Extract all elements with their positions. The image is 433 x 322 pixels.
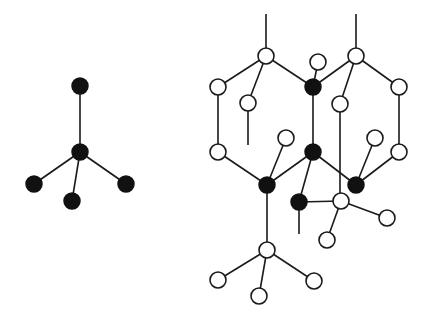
open-atom [251,288,267,304]
crystal-structure-diagram [0,0,433,322]
open-atom [348,48,364,64]
lattice-bond [218,152,267,185]
open-atom [240,95,256,111]
filled-atom [259,177,275,193]
open-atom [259,242,275,258]
filled-atom [305,144,321,160]
filled-atom [118,176,134,192]
open-atom [332,96,348,112]
open-atom [333,193,349,209]
open-atom [319,232,335,248]
filled-atom [291,194,307,210]
open-atom [391,79,407,95]
open-atom [306,273,322,289]
open-atom [210,272,226,288]
filled-atom [72,78,88,94]
filled-atom [26,176,42,192]
filled-atom [72,144,88,160]
filled-atom [305,79,321,95]
filled-atom [64,193,80,209]
open-atom [391,144,407,160]
open-atom [258,48,274,64]
lattice-atoms [210,48,407,304]
filled-atom [348,177,364,193]
open-atom [379,210,395,226]
open-atom [210,79,226,95]
open-atom [367,130,383,146]
open-atom [310,54,326,70]
open-atom [278,130,294,146]
open-atom [210,144,226,160]
